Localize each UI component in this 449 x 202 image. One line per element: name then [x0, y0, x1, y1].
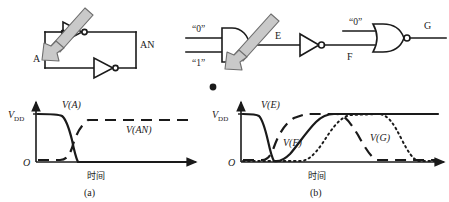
inverter-b [300, 34, 319, 56]
label-node-AN: AN [140, 39, 154, 50]
label-node-G: G [424, 20, 431, 31]
panel-b-caption: (b) [310, 187, 322, 199]
panel-a: A AN VDD O 时间 V(A) V(AN) (a) [8, 8, 196, 199]
curve-VF [243, 114, 438, 160]
label-input-nor-top: “0” [349, 17, 362, 27]
chart-b-xlabel: 时间 [308, 170, 326, 181]
inverter-bottom-bubble-a [113, 65, 118, 70]
chart-a: VDD O 时间 V(A) V(AN) [8, 99, 196, 181]
inverter-bubble-b [319, 42, 325, 48]
chart-a-xlabel: 时间 [87, 170, 105, 181]
label-node-F: F [347, 51, 353, 62]
curve-VA [38, 114, 190, 162]
chart-b-ylabel-vdd: VDD [212, 109, 228, 123]
label-node-E: E [275, 30, 281, 41]
curve-label-VE: V(E) [261, 99, 281, 111]
chart-b: VDD O 时间 V(E) V(F) V(G) [212, 99, 444, 181]
curve-VE [243, 114, 438, 161]
figure-container: A AN VDD O 时间 V(A) V(AN) (a) [0, 0, 449, 202]
inverter-top-bubble-a [82, 29, 87, 34]
chart-a-ylabel-origin: O [23, 157, 30, 168]
label-input-nand-bottom: “1” [192, 58, 205, 68]
chart-a-ylabel-vdd: VDD [8, 109, 24, 123]
label-node-A: A [33, 53, 41, 64]
panel-a-caption: (a) [84, 187, 95, 199]
chart-b-ylabel-origin: O [228, 157, 235, 168]
curve-label-VA: V(A) [62, 99, 82, 111]
nor-gate [373, 24, 404, 52]
curve-label-VF: V(F) [283, 137, 303, 149]
bullet-dot-icon [210, 84, 217, 91]
nor-bubble [404, 35, 410, 41]
label-input-nand-top: “0” [192, 24, 205, 34]
curve-label-VAN: V(AN) [126, 124, 152, 136]
inverter-bottom-a [94, 58, 113, 78]
panel-b: “0” “1” “0” E F G VDD O 时间 V(E) [186, 14, 446, 199]
curve-label-VG: V(G) [370, 132, 391, 144]
curve-VAN [38, 120, 190, 160]
figure-svg: A AN VDD O 时间 V(A) V(AN) (a) [0, 0, 449, 202]
circuit-b [186, 24, 446, 62]
